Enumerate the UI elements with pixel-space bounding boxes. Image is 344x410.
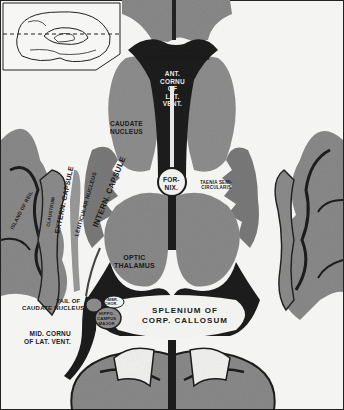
label-fornix: FOR- NIX. (163, 176, 180, 191)
right-insula-strip (275, 170, 294, 310)
label-optic-thalamus: OPTIC THALAMUS (114, 254, 155, 270)
frontal-cortex (122, 0, 232, 42)
label-taenia-semicircularis: TAENIA SEMI- CIRCULARIS (200, 180, 232, 190)
label-tail-caudate: TAIL OF CAUDATE NUCLEUS (22, 298, 85, 312)
label-hippocampus-major: HIPPO- CAMPUS MAJOR (97, 311, 116, 326)
label-ant-cornu: ANT. CORNU OF LAT. VENT. (160, 70, 185, 108)
label-caudate-nucleus: CAUDATE NUCLEUS (110, 120, 143, 136)
label-genu: GENU OF CORP. CALLOSUM (144, 46, 210, 62)
occipital-lobes (71, 340, 274, 410)
label-splenium: SPLENIUM OF CORP. CALLOSUM (142, 306, 228, 326)
label-mid-cornu: MID. CORNU OF LAT. VENT. (24, 330, 71, 346)
brain-section-figure: GENU OF CORP. CALLOSUM ANT. CORNU OF LAT… (0, 0, 344, 410)
inset-hemisphere-diagram (3, 3, 120, 70)
label-fimbria: FIMBR. CHOR. (104, 298, 118, 306)
optic-thalami (104, 193, 240, 287)
